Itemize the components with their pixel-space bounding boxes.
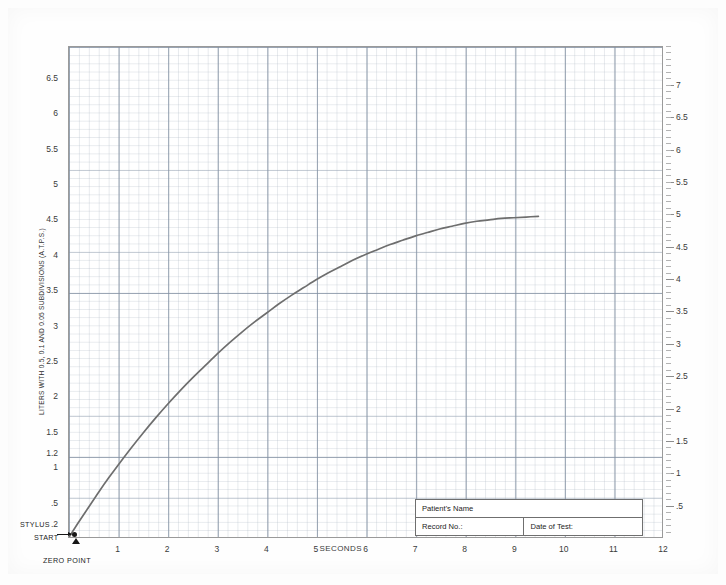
- y-axis-right: LITERS WITH SUBDIVISIONS (B.T.P.S.) AT 2…: [666, 8, 706, 585]
- patient-info-box[interactable]: Patient's Name Record No.: Date of Test:: [415, 499, 643, 536]
- y-axis-right-major-tickmark: [666, 409, 674, 410]
- zero-point-marker-icon: [72, 538, 80, 544]
- y-axis-right-tick: 1: [676, 469, 681, 478]
- y-axis-right-minor-tickmark: [666, 130, 671, 131]
- y-axis-right-minor-tickmark: [666, 383, 671, 384]
- y-axis-left-tick: .2: [8, 520, 58, 529]
- y-axis-right-minor-tickmark: [666, 163, 671, 164]
- y-axis-left-tick: 2.5: [8, 357, 58, 366]
- y-axis-right-minor-tickmark: [666, 286, 671, 287]
- start-label: START: [34, 534, 58, 541]
- y-axis-right-tick: .5: [676, 502, 683, 511]
- y-axis-right-minor-tickmark: [666, 137, 671, 138]
- zero-point-label: ZERO POINT: [43, 557, 91, 564]
- y-axis-right-minor-tickmark: [666, 447, 671, 448]
- y-axis-right-minor-tickmark: [666, 480, 671, 481]
- y-axis-right-minor-tickmark: [666, 331, 671, 332]
- y-axis-right-minor-tickmark: [666, 124, 671, 125]
- y-axis-right-minor-tickmark: [666, 240, 671, 241]
- y-axis-right-minor-tickmark: [666, 292, 671, 293]
- y-axis-right-minor-tickmark: [666, 143, 671, 144]
- y-axis-right-tick: 4: [676, 275, 681, 284]
- y-axis-right-minor-tickmark: [666, 182, 671, 183]
- y-axis-right-minor-tickmark: [666, 318, 671, 319]
- y-axis-right-minor-tickmark: [666, 221, 671, 222]
- y-axis-right-minor-tickmark: [666, 532, 671, 533]
- y-axis-right-minor-tickmark: [666, 428, 671, 429]
- y-axis-left-tick: 3: [8, 322, 58, 331]
- patient-name-row[interactable]: Patient's Name: [416, 500, 642, 518]
- y-axis-right-minor-tickmark: [666, 175, 671, 176]
- y-axis-right-minor-tickmark: [666, 357, 671, 358]
- y-axis-right-minor-tickmark: [666, 415, 671, 416]
- y-axis-right-minor-tickmark: [666, 266, 671, 267]
- y-axis-right-major-tickmark: [666, 441, 674, 442]
- y-axis-left-tick: .5: [8, 499, 58, 508]
- y-axis-right-minor-tickmark: [666, 467, 671, 468]
- x-axis-tick: 6: [363, 545, 368, 554]
- y-axis-right-tick: 4.5: [676, 243, 688, 252]
- x-axis-tick: 4: [264, 545, 269, 554]
- y-axis-right-minor-tickmark: [666, 402, 671, 403]
- y-axis-right-minor-tickmark: [666, 260, 671, 261]
- y-axis-right-minor-tickmark: [666, 519, 671, 520]
- x-axis-tick: 12: [658, 545, 667, 554]
- y-axis-right-minor-tickmark: [666, 421, 671, 422]
- y-axis-right-minor-tickmark: [666, 214, 671, 215]
- x-axis-tick: 3: [214, 545, 219, 554]
- y-axis-right-minor-tickmark: [666, 98, 671, 99]
- x-axis-tick: 5: [314, 545, 319, 554]
- record-no-field[interactable]: Record No.:: [416, 518, 524, 536]
- y-axis-right-minor-tickmark: [666, 486, 671, 487]
- y-axis-right-minor-tickmark: [666, 512, 671, 513]
- y-axis-right-minor-tickmark: [666, 117, 671, 118]
- y-axis-right-minor-tickmark: [666, 337, 671, 338]
- y-axis-right-tick: 3.5: [676, 307, 688, 316]
- y-axis-left-tick: 5: [8, 180, 58, 189]
- y-axis-right-minor-tickmark: [666, 59, 671, 60]
- stylus-start-marker-icon: [72, 532, 77, 537]
- y-axis-right-tick: 2: [676, 405, 681, 414]
- spirometry-chart-page: LITERS WITH 0.5, 0.1 AND 0.05 SUBDIVISIO…: [0, 0, 726, 585]
- x-axis-tick: 11: [609, 545, 618, 554]
- y-axis-right-major-tickmark: [666, 279, 674, 280]
- spirogram-trace: [69, 47, 662, 537]
- y-axis-right-minor-tickmark: [666, 111, 671, 112]
- y-axis-right-minor-tickmark: [666, 188, 671, 189]
- y-axis-right-minor-tickmark: [666, 169, 671, 170]
- y-axis-right-minor-tickmark: [666, 350, 671, 351]
- y-axis-right-major-tickmark: [666, 506, 674, 507]
- x-axis-tick: 9: [512, 545, 517, 554]
- y-axis-right-minor-tickmark: [666, 78, 671, 79]
- y-axis-right-minor-tickmark: [666, 208, 671, 209]
- x-axis-tick: 10: [559, 545, 568, 554]
- patient-name-field[interactable]: Patient's Name: [416, 500, 642, 517]
- stylus-arrow-icon: [57, 534, 71, 535]
- y-axis-left-tick: 1.2: [8, 449, 58, 458]
- y-axis-left-tick: 1: [8, 463, 58, 472]
- y-axis-right-minor-tickmark: [666, 370, 671, 371]
- y-axis-right-minor-tickmark: [666, 473, 671, 474]
- y-axis-right-major-tickmark: [666, 344, 674, 345]
- date-of-test-field[interactable]: Date of Test:: [524, 518, 642, 536]
- y-axis-left-tick: 6: [8, 109, 58, 118]
- x-axis-title: SECONDS: [320, 545, 362, 553]
- record-date-row[interactable]: Record No.: Date of Test:: [416, 518, 642, 536]
- y-axis-right-minor-tickmark: [666, 389, 671, 390]
- y-axis-right-tick: 3: [676, 340, 681, 349]
- y-axis-right-minor-tickmark: [666, 460, 671, 461]
- y-axis-right-minor-tickmark: [666, 150, 671, 151]
- y-axis-right-minor-tickmark: [666, 298, 671, 299]
- y-axis-right-minor-tickmark: [666, 65, 671, 66]
- y-axis-right-minor-tickmark: [666, 91, 671, 92]
- y-axis-left-tick: 4.5: [8, 215, 58, 224]
- y-axis-right-minor-tickmark: [666, 499, 671, 500]
- y-axis-right-minor-tickmark: [666, 253, 671, 254]
- y-axis-right-minor-tickmark: [666, 195, 671, 196]
- x-axis-tick: 8: [462, 545, 467, 554]
- y-axis-right-tick: 5.5: [676, 178, 688, 187]
- y-axis-right-major-tickmark: [666, 376, 674, 377]
- y-axis-right-minor-tickmark: [666, 363, 671, 364]
- y-axis-right-minor-tickmark: [666, 396, 671, 397]
- x-axis-tick: 2: [165, 545, 170, 554]
